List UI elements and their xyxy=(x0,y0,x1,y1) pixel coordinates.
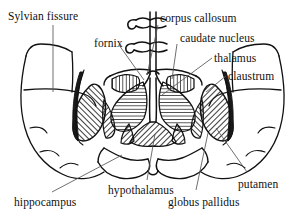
label-globus-pallidus: globus pallidus xyxy=(168,196,239,208)
label-hippocampus: hippocampus xyxy=(14,196,76,208)
label-caudate-nucleus: caudate nucleus xyxy=(180,32,255,44)
anatomical-diagram-figure: Sylvian fissure corpus callosum fornix c… xyxy=(0,0,305,217)
leader-caudate-nucleus xyxy=(172,44,177,79)
cortex-outline xyxy=(21,44,284,179)
leader-globus-pallidus xyxy=(196,133,208,190)
label-thalamus: thalamus xyxy=(214,52,256,64)
globus-pallidus-left xyxy=(103,100,115,138)
label-corpus-callosum: corpus callosum xyxy=(160,12,237,24)
label-sylvian-fissure: Sylvian fissure xyxy=(8,10,78,22)
label-putamen: putamen xyxy=(238,178,278,190)
label-fornix: fornix xyxy=(94,37,123,49)
globus-pallidus-right xyxy=(191,100,203,138)
label-claustrum: claustrum xyxy=(228,70,274,82)
hippocampus-region xyxy=(98,148,208,179)
label-hypothalamus: hypothalamus xyxy=(108,184,174,196)
